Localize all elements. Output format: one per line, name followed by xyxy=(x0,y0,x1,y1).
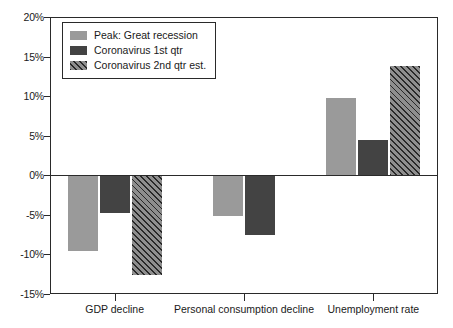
legend-item: Coronavirus 1st qtr xyxy=(70,43,206,58)
legend-label: Coronavirus 1st qtr xyxy=(94,43,183,58)
bar xyxy=(132,175,162,275)
bar xyxy=(213,175,243,216)
legend-swatch-coronavirus-2nd-qtr-est xyxy=(70,61,87,70)
x-axis-tick-label: Unemployment rate xyxy=(328,303,420,315)
x-axis-tick-mark xyxy=(244,294,245,301)
y-axis-tick-mark xyxy=(44,17,50,18)
y-axis-tick-mark xyxy=(44,254,50,255)
bar xyxy=(358,140,388,175)
legend-item: Coronavirus 2nd qtr est. xyxy=(70,58,206,73)
bar xyxy=(245,175,275,235)
y-axis-tick-mark xyxy=(44,96,50,97)
y-axis-tick-label: 5% xyxy=(0,130,44,142)
y-axis-tick-label: -15% xyxy=(0,288,44,300)
legend-swatch-coronavirus-1st-qtr xyxy=(70,46,87,55)
y-axis-tick-label: 20% xyxy=(0,11,44,23)
y-axis-tick-label: -5% xyxy=(0,209,44,221)
x-axis-tick-label: GDP decline xyxy=(85,303,144,315)
y-axis-tick-label: 0% xyxy=(0,169,44,181)
bar xyxy=(390,66,420,175)
x-axis-tick-mark xyxy=(115,294,116,301)
y-axis-tick-label: -10% xyxy=(0,248,44,260)
zero-baseline xyxy=(50,175,438,176)
y-axis-tick-mark xyxy=(44,136,50,137)
y-axis-tick-mark xyxy=(44,294,50,295)
y-axis-tick-mark xyxy=(44,215,50,216)
bar-chart: 20%15%10%5%0%-5%-10%-15% GDP declinePers… xyxy=(0,0,453,328)
bar xyxy=(326,98,356,176)
x-axis-tick-mark xyxy=(373,294,374,301)
bar xyxy=(100,175,130,213)
legend-swatch-peak-great-recession xyxy=(70,31,87,40)
chart-legend: Peak: Great recession Coronavirus 1st qt… xyxy=(62,22,216,79)
legend-item: Peak: Great recession xyxy=(70,28,206,43)
y-axis-tick-label: 10% xyxy=(0,90,44,102)
legend-label: Coronavirus 2nd qtr est. xyxy=(94,58,206,73)
legend-label: Peak: Great recession xyxy=(94,28,198,43)
y-axis-tick-label: 15% xyxy=(0,51,44,63)
bar xyxy=(68,175,98,251)
x-axis-tick-label: Personal consumption decline xyxy=(174,303,314,315)
y-axis-tick-mark xyxy=(44,57,50,58)
